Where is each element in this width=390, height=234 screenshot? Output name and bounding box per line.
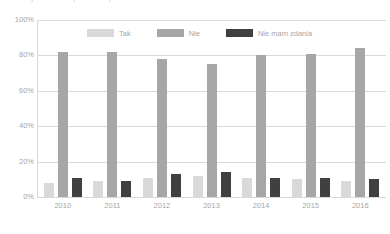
bar-2011-tak[interactable] <box>93 181 103 197</box>
bar-group-2014 <box>236 20 286 197</box>
bar-group-2012 <box>137 20 187 197</box>
legend-label: Tak <box>119 29 131 38</box>
bar-chart: Wykres — opinie respondentów w latach 20… <box>0 0 390 234</box>
bar-groups <box>38 20 385 197</box>
chart-legend: TakNieNie mam zdania <box>37 26 385 40</box>
bar-2012-tak[interactable] <box>143 178 153 197</box>
axis-baseline <box>37 197 385 198</box>
bar-2011-nie[interactable] <box>107 52 117 197</box>
bar-2011-nmz[interactable] <box>121 181 131 197</box>
bar-2013-nmz[interactable] <box>221 172 231 197</box>
y-axis: 0%20%40%60%80%100% <box>0 0 34 234</box>
x-axis-tick-label: 2014 <box>236 201 286 210</box>
bar-group-2013 <box>187 20 237 197</box>
bar-2013-tak[interactable] <box>193 176 203 197</box>
legend-swatch-icon <box>157 29 184 37</box>
legend-label: Nie mam zdania <box>258 29 312 38</box>
bar-group-2015 <box>286 20 336 197</box>
bar-2014-nie[interactable] <box>256 55 266 197</box>
chart-title-text: Wykres — opinie respondentów w latach 20… <box>22 0 239 2</box>
x-axis-tick-label: 2012 <box>137 201 187 210</box>
bar-group-2011 <box>88 20 138 197</box>
y-axis-tick-label: 80% <box>4 51 34 59</box>
legend-item-nie[interactable]: Nie <box>157 29 200 38</box>
bar-2015-nmz[interactable] <box>320 178 330 197</box>
bar-2015-tak[interactable] <box>292 179 302 197</box>
bar-2010-nie[interactable] <box>58 52 68 197</box>
x-axis-tick-label: 2015 <box>286 201 336 210</box>
bar-2016-nie[interactable] <box>355 48 365 197</box>
bar-2014-tak[interactable] <box>242 178 252 197</box>
legend-item-nmz[interactable]: Nie mam zdania <box>226 29 312 38</box>
bar-2015-nie[interactable] <box>306 54 316 197</box>
y-axis-tick-label: 60% <box>4 87 34 95</box>
bar-group-2016 <box>335 20 385 197</box>
x-axis-tick-label: 2010 <box>38 201 88 210</box>
bar-2016-tak[interactable] <box>341 181 351 197</box>
legend-label: Nie <box>189 29 200 38</box>
y-axis-tick-label: 100% <box>4 16 34 24</box>
bar-2010-tak[interactable] <box>44 183 54 197</box>
bar-2012-nie[interactable] <box>157 59 167 197</box>
y-axis-tick-label: 40% <box>4 122 34 130</box>
legend-swatch-icon <box>226 29 253 37</box>
x-axis: 2010201120122013201420152016 <box>38 201 385 210</box>
legend-item-tak[interactable]: Tak <box>87 29 131 38</box>
bar-2012-nmz[interactable] <box>171 174 181 197</box>
y-axis-tick-label: 20% <box>4 158 34 166</box>
legend-swatch-icon <box>87 29 114 37</box>
x-axis-tick-label: 2016 <box>335 201 385 210</box>
bar-2014-nmz[interactable] <box>270 178 280 197</box>
x-axis-tick-label: 2013 <box>187 201 237 210</box>
x-axis-tick-label: 2011 <box>88 201 138 210</box>
bar-2013-nie[interactable] <box>207 64 217 197</box>
chart-title-clipped: Wykres — opinie respondentów w latach 20… <box>0 0 390 11</box>
bar-group-2010 <box>38 20 88 197</box>
y-axis-tick-label: 0% <box>4 193 34 201</box>
bar-2010-nmz[interactable] <box>72 178 82 197</box>
bar-2016-nmz[interactable] <box>369 179 379 197</box>
